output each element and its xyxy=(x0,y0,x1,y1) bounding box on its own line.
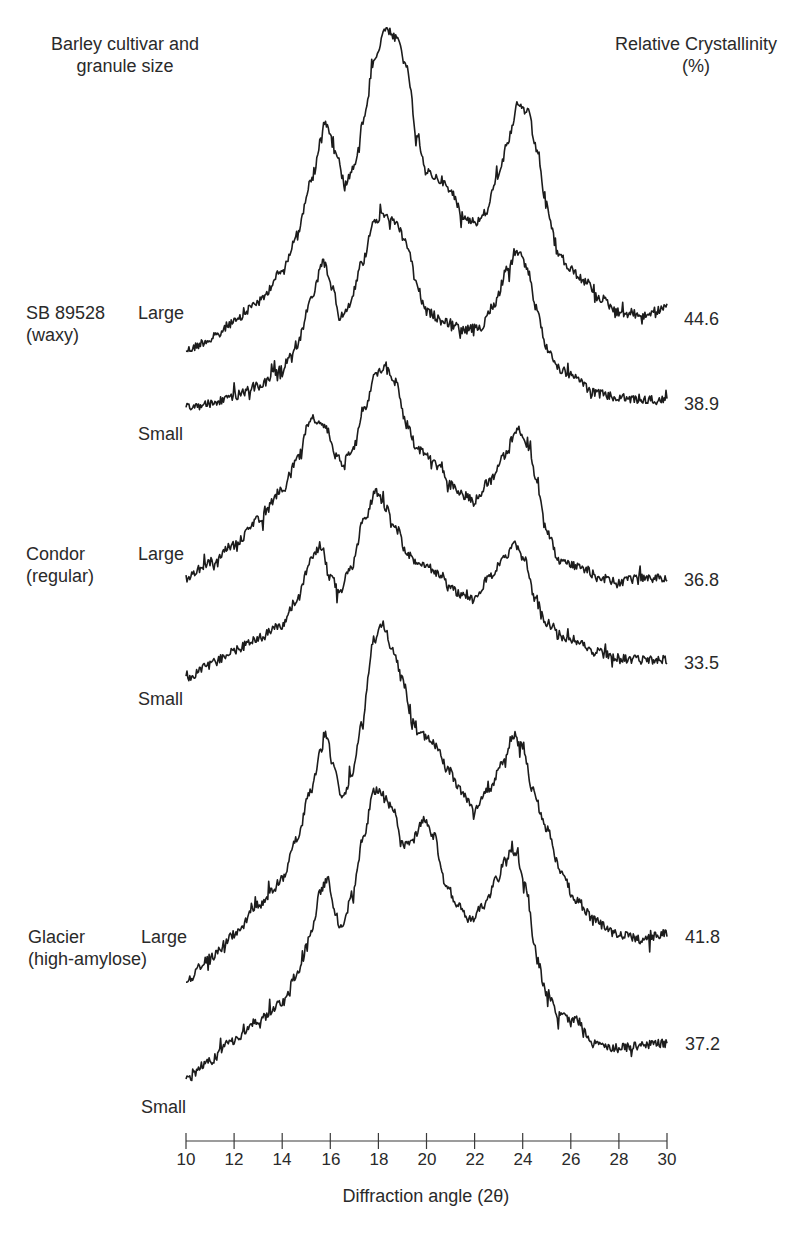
size-label: Large xyxy=(141,926,187,948)
trace-sb89528-large xyxy=(186,28,667,352)
size-label: Small xyxy=(138,688,183,710)
trace-glacier-small xyxy=(186,787,667,1081)
size-label: Large xyxy=(138,302,184,324)
x-tick-label: 30 xyxy=(658,1150,677,1170)
x-tick-label: 22 xyxy=(466,1150,485,1170)
x-tick-label: 12 xyxy=(225,1150,244,1170)
header-right: Relative Crystallinity (%) xyxy=(596,33,796,77)
crystallinity-value: 41.8 xyxy=(685,926,720,948)
cultivar-name: Condor xyxy=(26,543,94,565)
cultivar-type: (high-amylose) xyxy=(28,948,147,970)
header-right-line1: Relative Crystallinity xyxy=(596,33,796,55)
header-right-line2: (%) xyxy=(596,55,796,77)
x-tick-label: 10 xyxy=(177,1150,196,1170)
header-left-line2: granule size xyxy=(20,55,230,77)
x-tick-label: 18 xyxy=(370,1150,389,1170)
crystallinity-value: 38.9 xyxy=(684,393,719,415)
x-tick-label: 20 xyxy=(418,1150,437,1170)
size-label: Small xyxy=(138,423,183,445)
crystallinity-value: 36.8 xyxy=(684,569,719,591)
trace-sb89528-small xyxy=(186,204,667,409)
crystallinity-value: 37.2 xyxy=(685,1033,720,1055)
header-left-line1: Barley cultivar and xyxy=(20,33,230,55)
group-label-glacier: Glacier (high-amylose) xyxy=(28,926,147,970)
x-axis xyxy=(186,1133,667,1149)
crystallinity-value: 44.6 xyxy=(684,308,719,330)
x-axis-label: Diffraction angle (2θ) xyxy=(326,1185,526,1207)
group-label-sb89528: SB 89528 (waxy) xyxy=(26,302,105,346)
x-tick-label: 24 xyxy=(514,1150,533,1170)
group-label-condor: Condor (regular) xyxy=(26,543,94,587)
cultivar-type: (waxy) xyxy=(26,324,105,346)
cultivar-name: Glacier xyxy=(28,926,147,948)
x-tick-label: 28 xyxy=(610,1150,629,1170)
trace-glacier-large xyxy=(186,621,667,982)
x-tick-label: 26 xyxy=(562,1150,581,1170)
size-label: Small xyxy=(141,1096,186,1118)
diffraction-traces xyxy=(186,28,667,1081)
cultivar-type: (regular) xyxy=(26,565,94,587)
x-tick-label: 16 xyxy=(322,1150,341,1170)
crystallinity-value: 33.5 xyxy=(684,652,719,674)
header-left: Barley cultivar and granule size xyxy=(20,33,230,77)
cultivar-name: SB 89528 xyxy=(26,302,105,324)
x-tick-label: 14 xyxy=(273,1150,292,1170)
size-label: Large xyxy=(138,543,184,565)
